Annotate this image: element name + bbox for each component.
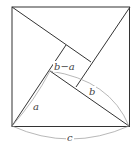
- leg-right: [76, 7, 130, 87]
- leg-left: [12, 45, 66, 126]
- pythagorean-diagram: b−a a b c: [0, 0, 140, 153]
- label-a: a: [33, 101, 39, 112]
- leg-top: [12, 7, 91, 62]
- leg-bottom: [50, 71, 129, 126]
- label-b: b: [89, 86, 95, 97]
- label-c: c: [67, 132, 73, 143]
- label-b-minus-a: b−a: [54, 61, 75, 72]
